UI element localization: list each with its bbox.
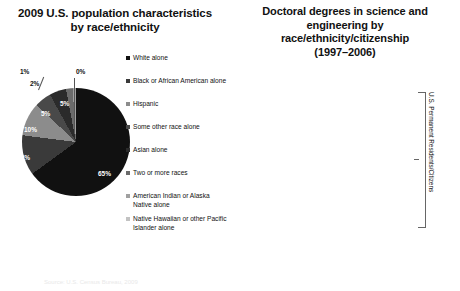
left-slice-label-12pct: 12% [17,154,30,161]
left-slice-label-1pct: 1% [20,68,29,75]
permanent-residents-bracket-label: U.S. Permanent Residents/Citizens [425,92,437,228]
left-chart-legend: White alone Black or African American al… [126,54,230,238]
legend-item-some-other-race-alone[interactable]: Some other race alone [126,123,230,142]
permanent-residents-bracket-tick [414,159,419,160]
left-leader-line-0pct [74,78,75,134]
right-chart-title-line4: (1997–2006) [230,46,460,60]
left-slice-label-65pct: 65% [98,170,111,177]
legend-swatch-icon [126,194,130,198]
legend-item-hispanic[interactable]: Hispanic [126,100,230,119]
right-chart-title-line1: Doctoral degrees in science and [230,5,460,19]
left-slice-label-2pct: 2% [30,80,39,87]
legend-item-label: Black or African American alone [133,77,226,86]
legend-item-label: Two or more races [133,169,188,178]
legend-swatch-icon [126,102,130,106]
left-chart-title: 2009 U.S. population characteristics by … [0,6,230,34]
legend-swatch-icon [126,217,130,221]
figure-footer-note: Source: U.S. Census Bureau, 2009 [44,279,244,285]
left-chart-title-line2: by race/ethnicity [0,20,230,34]
left-slice-label-5pct-b: 5% [60,100,69,107]
right-chart-title-line2: engineering by [230,19,460,33]
legend-swatch-icon [126,148,130,152]
legend-item-label: Native Hawaiian or other Pacific Islande… [133,215,230,232]
legend-item-label: Asian alone [133,146,167,155]
legend-item-label: White alone [133,54,168,63]
legend-item-asian-alone[interactable]: Asian alone [126,146,230,165]
right-chart-title-line3: race/ethnicity/citizenship [230,32,460,46]
legend-item-label: American Indian or Alaska Native alone [133,192,230,209]
legend-item-native-hawaiian-or-other-pacific-islander-alone[interactable]: Native Hawaiian or other Pacific Islande… [126,215,230,234]
legend-swatch-icon [126,56,130,60]
legend-item-american-indian-or-alaska-native-alone[interactable]: American Indian or Alaska Native alone [126,192,230,211]
left-pie-chart: 1% 0% 2% 5% 5% 10% 12% 65% [22,88,130,196]
left-slice-label-10pct: 10% [24,126,37,133]
legend-item-label: Hispanic [133,100,158,109]
left-slice-label-5pct-a: 5% [41,110,50,117]
legend-item-label: Some other race alone [133,123,200,132]
legend-item-white-alone[interactable]: White alone [126,54,230,73]
left-slice-label-0pct: 0% [76,68,85,75]
right-chart-title: Doctoral degrees in science and engineer… [230,5,460,59]
legend-swatch-icon [126,125,130,129]
left-pie-slices [22,88,130,196]
legend-swatch-icon [126,171,130,175]
legend-item-black-or-african-american-alone[interactable]: Black or African American alone [126,77,230,96]
legend-item-two-or-more-races[interactable]: Two or more races [126,169,230,188]
left-chart-title-line1: 2009 U.S. population characteristics [0,6,230,20]
legend-swatch-icon [126,79,130,83]
left-chart-panel: 2009 U.S. population characteristics by … [0,0,230,291]
